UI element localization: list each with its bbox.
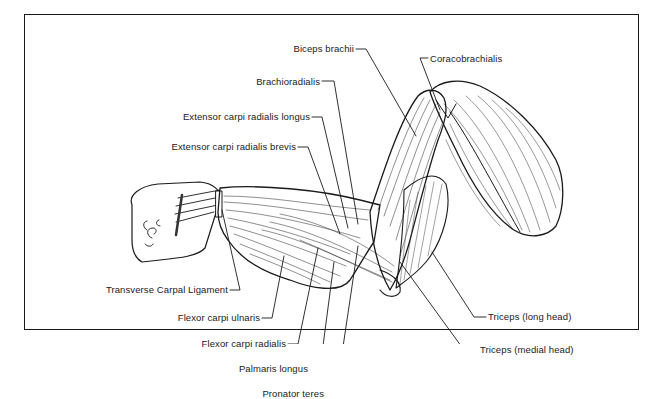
- label-coracobrachialis: Coracobrachialis: [430, 53, 502, 64]
- label-palmaris-longus: Palmaris longus: [218, 363, 308, 374]
- label-triceps-medial-head: Triceps (medial head): [480, 344, 574, 355]
- label-pronator-teres: Pronator teres: [234, 388, 324, 399]
- upper-arm-outline: [370, 90, 446, 290]
- label-triceps-long-head: Triceps (long head): [488, 311, 571, 322]
- label-brachioradialis: Brachioradialis: [230, 76, 320, 87]
- label-extensor-carpi-radialis-longus: Extensor carpi radialis longus: [160, 111, 310, 122]
- label-extensor-carpi-radialis-brevis: Extensor carpi radialis brevis: [146, 141, 296, 152]
- label-biceps-brachii: Biceps brachii: [268, 43, 354, 54]
- label-transverse-carpal-ligament: Transverse Carpal Ligament: [86, 284, 228, 295]
- label-flexor-carpi-radialis: Flexor carpi radialis: [176, 338, 286, 349]
- label-flexor-carpi-ulnaris: Flexor carpi ulnaris: [150, 312, 260, 323]
